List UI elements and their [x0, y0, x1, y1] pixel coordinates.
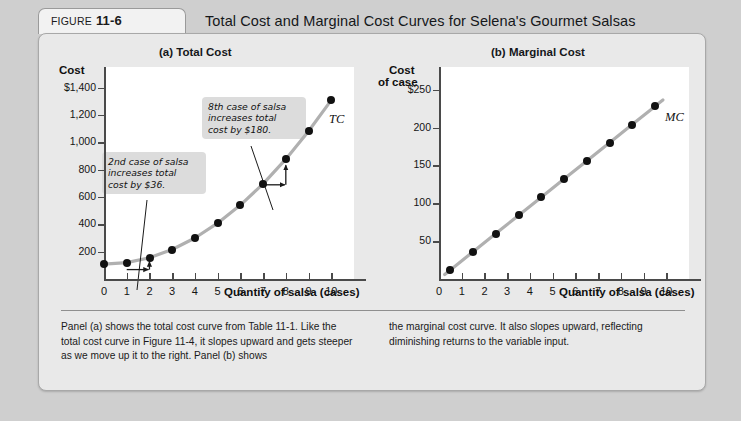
total-cost-y-axis-line	[104, 67, 106, 279]
marginal-cost-x-tick-label: 3	[495, 285, 519, 297]
total-cost-x-axis-line	[104, 279, 366, 281]
caption-right: the marginal cost curve. It also slopes …	[389, 320, 685, 349]
marginal-cost-data-point	[628, 121, 636, 129]
total-cost-y-tick-label: 600	[40, 190, 96, 202]
marginal-cost-y-axis-line	[439, 67, 441, 279]
total-cost-x-tick	[286, 273, 288, 280]
caption-left: Panel (a) shows the total cost curve fro…	[61, 320, 357, 364]
marginal-cost-x-tick	[462, 273, 464, 280]
marginal-cost-y-tick-label: 200	[375, 121, 431, 133]
marginal-cost-x-tick-label: 9	[632, 285, 656, 297]
total-cost-x-tick-label: 8	[274, 285, 298, 297]
marginal-cost-x-tick	[484, 273, 486, 280]
total-cost-y-tick	[98, 252, 105, 254]
total-cost-x-tick	[218, 273, 220, 280]
figure-container: FIGURE11-6 Total Cost and Marginal Cost …	[0, 0, 741, 421]
marginal-cost-y-axis-title-1: Cost	[389, 64, 415, 76]
total-cost-y-tick-label: 1,000	[40, 135, 96, 147]
marginal-cost-y-tick	[433, 241, 440, 243]
marginal-cost-x-tick-label: 0	[427, 285, 451, 297]
marginal-cost-x-tick	[553, 273, 555, 280]
total-cost-x-tick-label: 0	[92, 285, 116, 297]
total-cost-data-point	[123, 259, 131, 267]
total-cost-y-tick-label: 200	[40, 245, 96, 257]
marginal-cost-data-point	[469, 248, 477, 256]
caption-divider	[61, 310, 685, 311]
marginal-cost-x-tick	[575, 273, 577, 280]
total-cost-y-tick	[98, 224, 105, 226]
marginal-cost-x-tick-label: 6	[563, 285, 587, 297]
total-cost-x-tick	[172, 273, 174, 280]
marginal-cost-y-tick	[433, 128, 440, 130]
total-cost-y-tick	[98, 142, 105, 144]
total-cost-data-point	[305, 127, 313, 135]
total-cost-y-axis-title: Cost	[59, 64, 85, 76]
total-cost-y-tick	[98, 170, 105, 172]
total-cost-y-tick	[98, 88, 105, 90]
marginal-cost-x-tick-label: 5	[541, 285, 565, 297]
panel-b-title: (b) Marginal Cost	[491, 46, 585, 58]
total-cost-data-point	[282, 155, 290, 163]
total-cost-data-point	[191, 234, 199, 242]
marginal-cost-y-tick-label: 50	[375, 234, 431, 246]
marginal-cost-y-tick-label: 150	[375, 158, 431, 170]
figure-tab-text: FIGURE11-6	[51, 13, 122, 28]
figure-tab: FIGURE11-6	[38, 8, 186, 34]
figure-body: (a) Total Cost Cost Quantity of salsa (c…	[38, 33, 706, 391]
marginal-cost-x-tick-label: 2	[472, 285, 496, 297]
total-cost-data-point	[168, 246, 176, 254]
marginal-cost-x-tick-label: 4	[518, 285, 542, 297]
total-cost-x-tick-label: 7	[251, 285, 275, 297]
tc-curve-label: TC	[329, 112, 344, 127]
total-cost-x-tick-label: 9	[297, 285, 321, 297]
marginal-cost-plot-area	[439, 67, 689, 279]
total-cost-x-tick-label: 10	[319, 285, 343, 297]
marginal-cost-x-tick-label: 1	[450, 285, 474, 297]
marginal-cost-y-tick-label: $250	[375, 83, 431, 95]
figure-tab-number: 11-6	[96, 13, 122, 28]
marginal-cost-data-point	[492, 230, 500, 238]
marginal-cost-y-tick	[433, 165, 440, 167]
marginal-cost-x-tick	[621, 273, 623, 280]
marginal-cost-x-tick	[666, 273, 668, 280]
figure-tab-label: FIGURE	[51, 15, 92, 27]
panel-a-title: (a) Total Cost	[159, 46, 232, 58]
total-cost-x-tick-label: 6	[228, 285, 252, 297]
marginal-cost-x-tick	[644, 273, 646, 280]
total-cost-x-tick-label: 1	[115, 285, 139, 297]
marginal-cost-x-tick	[507, 273, 509, 280]
total-cost-y-tick-label: 400	[40, 217, 96, 229]
total-cost-y-tick	[98, 115, 105, 117]
callout-8th-case: 8th case of salsa increases total cost b…	[202, 97, 306, 139]
total-cost-data-point	[259, 180, 267, 188]
total-cost-x-tick	[195, 273, 197, 280]
total-cost-x-tick	[240, 273, 242, 280]
marginal-cost-x-axis-line	[439, 279, 701, 281]
total-cost-x-tick-label: 2	[137, 285, 161, 297]
marginal-cost-x-tick	[598, 273, 600, 280]
total-cost-x-tick	[309, 273, 311, 280]
marginal-cost-x-tick-label: 10	[654, 285, 678, 297]
total-cost-x-tick	[263, 273, 265, 280]
mc-curve-label: MC	[665, 110, 684, 125]
marginal-cost-data-point	[583, 157, 591, 165]
marginal-cost-y-tick	[433, 203, 440, 205]
total-cost-y-tick-label: $1,400	[40, 81, 96, 93]
total-cost-x-tick	[149, 273, 151, 280]
total-cost-y-tick-label: 1,200	[40, 108, 96, 120]
total-cost-y-tick-label: 800	[40, 163, 96, 175]
marginal-cost-x-tick-label: 8	[609, 285, 633, 297]
marginal-cost-x-tick	[530, 273, 532, 280]
total-cost-x-tick	[127, 273, 129, 280]
total-cost-x-tick	[331, 273, 333, 280]
marginal-cost-data-point	[515, 211, 523, 219]
total-cost-data-point	[146, 254, 154, 262]
marginal-cost-y-tick-label: 100	[375, 196, 431, 208]
total-cost-x-tick-label: 5	[206, 285, 230, 297]
total-cost-x-tick-label: 3	[160, 285, 184, 297]
marginal-cost-data-point	[606, 139, 614, 147]
callout-2nd-case: 2nd case of salsa increases total cost b…	[102, 152, 206, 194]
total-cost-x-tick-label: 4	[183, 285, 207, 297]
total-cost-data-point	[214, 219, 222, 227]
marginal-cost-x-tick-label: 7	[586, 285, 610, 297]
